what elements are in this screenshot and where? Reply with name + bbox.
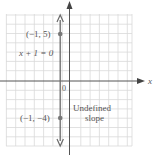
annotation-slope: slope [85,113,104,123]
y-axis-arrow-icon [67,1,73,9]
coordinate-graph: x 0 (−1, 5) (−1, −4) x + 1 = 0 Undefined… [0,0,154,162]
x-axis-label: x [147,76,152,86]
x-axis-arrow-icon [137,78,145,84]
x-axis [0,78,145,84]
point-label-minus1-minus4: (−1, −4) [20,113,50,123]
point-label-minus1-5: (−1, 5) [26,29,51,39]
origin-label: 0 [62,84,66,93]
equation-label: x + 1 = 0 [18,48,54,58]
point-minus1-minus4 [58,116,63,121]
point-minus1-5 [58,32,63,37]
annotation-undefined: Undefined [73,103,111,113]
